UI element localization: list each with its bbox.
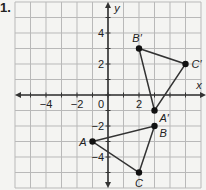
vertex-label: C′ xyxy=(192,58,203,70)
vertex-point xyxy=(151,123,157,129)
y-axis-arrow-down xyxy=(105,182,111,188)
x-axis-arrow-right xyxy=(200,92,206,98)
y-tick-label: 4 xyxy=(98,27,104,39)
vertex-label: A xyxy=(78,136,86,148)
x-axis-arrow-left xyxy=(15,92,21,98)
y-tick-label: −2 xyxy=(91,120,104,132)
vertex-point xyxy=(136,169,142,175)
y-tick-label: −4 xyxy=(91,151,104,163)
x-tick-label: −2 xyxy=(71,98,84,110)
vertex-label: B′ xyxy=(132,32,142,44)
vertex-point xyxy=(136,45,142,51)
origin-label: 0 xyxy=(98,98,104,110)
coordinate-plane: xy −4−2242−2−40 ABCA′B′C′ xyxy=(0,0,206,190)
x-tick-label: 2 xyxy=(136,98,142,110)
vertex-point xyxy=(182,61,188,67)
vertex-label: A′ xyxy=(159,112,170,124)
y-axis-arrow-up xyxy=(105,2,111,8)
vertex-label: C xyxy=(135,177,143,189)
vertex-label: B xyxy=(160,127,167,139)
vertex-point xyxy=(89,138,95,144)
axes: xy xyxy=(15,2,206,188)
vertex-point xyxy=(151,107,157,113)
y-axis-label: y xyxy=(113,2,121,14)
x-axis-label: x xyxy=(195,79,202,91)
x-tick-label: −4 xyxy=(40,98,53,110)
y-tick-label: 2 xyxy=(98,58,104,70)
